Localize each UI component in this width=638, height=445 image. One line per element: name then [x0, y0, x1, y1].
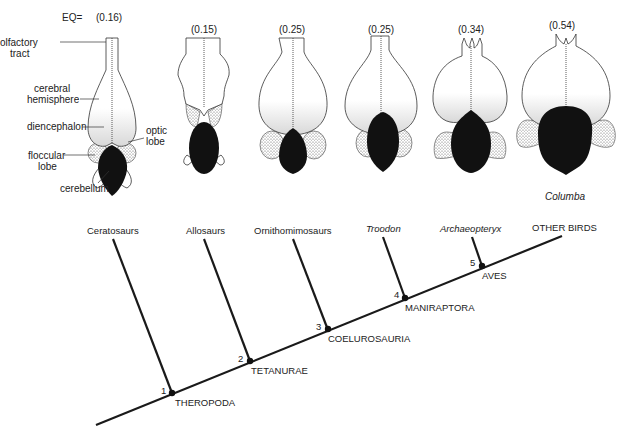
node-number-1: 1 — [161, 385, 166, 396]
label-lobe-floccular: lobe — [38, 161, 57, 172]
node-3-dot — [325, 326, 331, 332]
node-number-2: 2 — [238, 353, 243, 364]
cerebral-hemisphere — [433, 38, 507, 123]
brain-troodon: (0.25) — [345, 24, 417, 172]
tip-label-ornithomimosaurs: Ornithomimosaurs — [254, 225, 332, 236]
node-number-5: 5 — [470, 257, 475, 268]
figure-canvas: EQ= (0.16) olfactory tract cerebral hemi… — [0, 0, 638, 445]
label-floccular: floccular — [28, 150, 66, 161]
cerebellum — [538, 106, 592, 175]
branch-allosaurs — [204, 239, 250, 361]
eq-value-5: (0.34) — [458, 24, 484, 35]
clade-label-tetanurae: TETANURAE — [251, 365, 308, 376]
cladogram: Ceratosaurs Allosaurs Ornithomimosaurs T… — [87, 222, 597, 425]
eq-value-1: (0.16) — [96, 12, 122, 23]
columba-label: Columba — [545, 191, 585, 202]
brain-allosaur: (0.15) — [178, 24, 229, 174]
clade-label-aves: AVES — [482, 270, 507, 281]
branch-ceratosaurs — [113, 239, 172, 393]
eq-value-6: (0.54) — [549, 20, 575, 31]
label-tract: tract — [10, 48, 30, 59]
node-4-dot — [402, 295, 408, 301]
tip-label-allosaurs: Allosaurs — [186, 225, 225, 236]
clade-label-maniraptora: MANIRAPTORA — [405, 302, 475, 313]
label-olfactory: olfactory — [0, 37, 38, 48]
clade-label-theropoda: THEROPODA — [175, 397, 236, 408]
node-1-dot — [169, 390, 175, 396]
tip-label-ceratosaurs: Ceratosaurs — [87, 225, 139, 236]
label-diencephalon: diencephalon — [27, 121, 87, 132]
label-hemisphere: hemisphere — [27, 94, 80, 105]
brain-columba: (0.54) Columba — [517, 20, 616, 202]
eq-prefix-label: EQ= — [62, 12, 82, 23]
branch-ornithomimosaurs — [293, 239, 328, 330]
tip-label-archaeopteryx: Archaeopteryx — [439, 223, 503, 234]
brain-ornithomimosaur: (0.25) — [259, 24, 327, 174]
node-2-dot — [247, 358, 253, 364]
clade-label-coelurosauria: COELUROSAURIA — [328, 333, 411, 344]
eq-value-4: (0.25) — [368, 24, 394, 35]
cerebellum — [189, 122, 219, 174]
label-cerebral: cerebral — [34, 83, 70, 94]
tip-label-other-birds: OTHER BIRDS — [532, 222, 597, 233]
label-optic: optic — [146, 125, 167, 136]
eq-value-3: (0.25) — [279, 24, 305, 35]
cerebellum — [279, 128, 307, 174]
label-cerebellum: cerebellum — [60, 183, 109, 194]
node-number-3: 3 — [316, 321, 321, 332]
node-5-dot — [479, 263, 485, 269]
anatomy-labels: olfactory tract cerebral hemisphere dien… — [0, 37, 167, 194]
tip-label-troodon: Troodon — [366, 223, 401, 234]
node-number-4: 4 — [394, 289, 399, 300]
cerebral-hemisphere — [178, 38, 229, 116]
label-lobe-optic: lobe — [146, 136, 165, 147]
brain-archaeopteryx: (0.34) — [433, 24, 507, 173]
cerebellum — [367, 112, 399, 172]
eq-value-2: (0.15) — [191, 24, 217, 35]
